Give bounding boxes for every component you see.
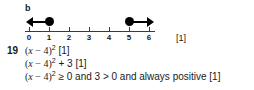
answer-line-2-mark: [1]	[75, 58, 86, 69]
axis-tick-label-4: 4	[102, 33, 116, 43]
answer-line-1: (x − 4)2 [1]	[25, 45, 70, 57]
answer-scheme-page: b 0 1 2 3 4 5 6 [1] 19 (x − 4)2 [1]	[0, 0, 254, 90]
right-ray-shaft	[131, 21, 148, 23]
left-ray-endpoint-dot	[45, 17, 54, 26]
answer-line-3-mark: [1]	[209, 71, 220, 82]
axis-tick-label-0: 0	[22, 33, 36, 43]
part-label-b: b	[25, 3, 31, 14]
axis-tick-2	[69, 27, 70, 32]
question-number: 19	[7, 45, 18, 57]
right-ray-arrowhead-icon	[147, 17, 154, 27]
answer-line-3: (x − 4)2 ≥ 0 and 3 > 0 and always positi…	[25, 71, 220, 83]
number-line-axis	[25, 31, 155, 32]
axis-tick-1	[49, 27, 50, 32]
axis-tick-6	[149, 27, 150, 32]
axis-tick-3	[89, 27, 90, 32]
mark-allocation-part-b: [1]	[176, 33, 186, 44]
answer-line-1-mark: [1]	[58, 45, 69, 56]
answer-line-1-operator: − 4	[33, 45, 49, 56]
axis-tick-5	[129, 27, 130, 32]
answer-line-3-operator: − 4	[33, 71, 49, 82]
answer-line-2: (x − 4)2 + 3 [1]	[25, 58, 87, 70]
answer-line-3-tail: ≥ 0 and 3 > 0 and always positive	[56, 71, 207, 82]
axis-tick-label-2: 2	[62, 33, 76, 43]
axis-tick-0	[29, 27, 30, 32]
axis-tick-label-3: 3	[82, 33, 96, 43]
answer-line-2-tail: + 3	[56, 58, 73, 69]
number-line-diagram: 0 1 2 3 4 5 6	[0, 14, 175, 44]
answer-line-2-operator: − 4	[33, 58, 49, 69]
axis-tick-label-6: 6	[142, 33, 156, 43]
axis-tick-label-5: 5	[122, 33, 136, 43]
answer-line-1-exponent: 2	[52, 44, 56, 51]
axis-tick-label-1: 1	[42, 33, 56, 43]
axis-tick-4	[109, 27, 110, 32]
